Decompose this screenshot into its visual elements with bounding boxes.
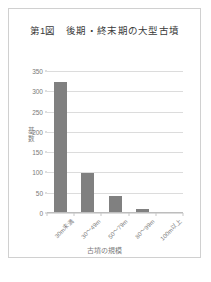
bar[interactable] xyxy=(109,196,122,212)
gridline xyxy=(47,193,183,194)
y-tick-label: 150 xyxy=(32,149,43,156)
gridline xyxy=(47,71,183,72)
x-tick-mark xyxy=(128,213,129,216)
gridline xyxy=(47,172,183,173)
y-tick-label: 250 xyxy=(32,108,43,115)
x-tick-mark xyxy=(74,213,75,216)
figure-panel: 第1図 後期・終末期の大型古墳 基数 050100150200250300350… xyxy=(8,8,201,258)
y-tick-mark xyxy=(45,71,47,72)
x-axis-title: 古墳の規模 xyxy=(9,245,200,255)
y-tick-label: 100 xyxy=(32,169,43,176)
y-tick-mark xyxy=(45,111,47,112)
x-tick-mark xyxy=(101,213,102,216)
x-tick-label: 100m以上 xyxy=(158,217,183,242)
y-tick-mark xyxy=(45,91,47,92)
gridline xyxy=(47,132,183,133)
x-tick-label: 80〜99m xyxy=(133,217,157,241)
gridline xyxy=(47,91,183,92)
bar[interactable] xyxy=(54,82,67,212)
plot-area: 05010015020025030035030m未満30〜49m50〜79m80… xyxy=(47,71,183,213)
x-tick-mark xyxy=(47,213,48,216)
x-tick-mark xyxy=(183,213,184,216)
bar[interactable] xyxy=(136,209,149,212)
y-tick-label: 50 xyxy=(36,189,43,196)
y-tick-mark xyxy=(45,172,47,173)
y-tick-mark xyxy=(45,131,47,132)
y-tick-mark xyxy=(45,152,47,153)
y-tick-label: 300 xyxy=(32,88,43,95)
y-tick-mark xyxy=(45,192,47,193)
y-tick-label: 0 xyxy=(39,210,43,217)
x-tick-label: 50〜79m xyxy=(106,217,130,241)
gridline xyxy=(47,152,183,153)
x-tick-mark xyxy=(155,213,156,216)
figure-title: 第1図 後期・終末期の大型古墳 xyxy=(9,23,200,37)
bar[interactable] xyxy=(81,173,94,212)
gridline xyxy=(47,112,183,113)
x-tick-label: 30〜49m xyxy=(79,217,103,241)
y-tick-label: 350 xyxy=(32,68,43,75)
gridline xyxy=(47,213,183,214)
y-tick-label: 200 xyxy=(32,128,43,135)
x-tick-label: 30m未満 xyxy=(52,217,75,240)
